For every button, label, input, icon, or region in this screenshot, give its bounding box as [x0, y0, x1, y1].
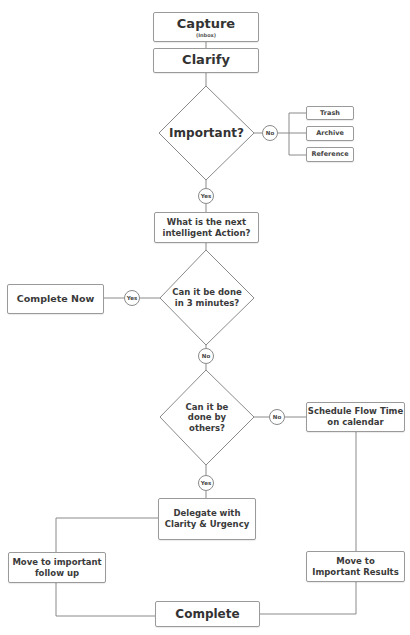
- by-others-line2: done by: [188, 412, 226, 423]
- archive-box: Archive: [306, 126, 354, 141]
- next-action-box: What is the next intelligent Action?: [154, 212, 259, 243]
- important-results-line1: Move to: [336, 556, 374, 567]
- delegate-line1: Delegate with: [174, 508, 241, 519]
- important-label: Important?: [169, 126, 244, 141]
- important-yes-connector: Yes: [198, 188, 214, 204]
- three-minutes-yes-connector: Yes: [124, 290, 140, 306]
- clarify-box: Clarify: [153, 48, 259, 73]
- by-others-line1: Can it be: [186, 402, 229, 413]
- follow-up-box: Move to important follow up: [8, 552, 106, 583]
- by-others-no-label: No: [273, 414, 281, 420]
- three-minutes-decision: Can it be done in 3 minutes?: [160, 250, 254, 345]
- schedule-box: Schedule Flow Time on calendar: [306, 402, 405, 432]
- follow-up-line2: follow up: [35, 568, 79, 579]
- capture-sublabel: (Inbox): [196, 33, 216, 38]
- important-no-label: No: [266, 130, 274, 136]
- three-minutes-no-connector: No: [198, 348, 214, 364]
- important-yes-label: Yes: [201, 193, 211, 199]
- capture-box: Capture (Inbox): [153, 12, 259, 42]
- complete-label: Complete: [175, 607, 239, 622]
- follow-up-line1: Move to important: [12, 557, 101, 568]
- reference-label: Reference: [311, 150, 348, 158]
- trash-box: Trash: [306, 106, 354, 120]
- important-decision: Important?: [159, 86, 254, 180]
- by-others-decision: Can it be done by others?: [160, 370, 254, 465]
- important-results-line2: Important Results: [312, 567, 398, 578]
- schedule-line2: on calendar: [327, 417, 383, 428]
- three-minutes-line1: Can it be done: [172, 287, 241, 298]
- complete-now-label: Complete Now: [17, 293, 94, 305]
- next-action-line1: What is the next: [167, 217, 246, 228]
- reference-box: Reference: [306, 147, 354, 162]
- important-no-connector: No: [262, 125, 278, 141]
- by-others-yes-connector: Yes: [198, 475, 214, 491]
- delegate-box: Delegate with Clarity & Urgency: [158, 498, 256, 540]
- complete-box: Complete: [155, 601, 260, 627]
- next-action-line2: intelligent Action?: [163, 228, 251, 239]
- by-others-yes-label: Yes: [201, 480, 211, 486]
- complete-now-box: Complete Now: [7, 284, 104, 314]
- archive-label: Archive: [316, 129, 344, 137]
- three-minutes-line2: in 3 minutes?: [175, 298, 240, 309]
- three-minutes-yes-label: Yes: [127, 295, 137, 301]
- schedule-line1: Schedule Flow Time: [308, 406, 403, 417]
- trash-label: Trash: [320, 109, 340, 117]
- clarify-label: Clarify: [182, 52, 230, 68]
- important-results-box: Move to Important Results: [306, 551, 405, 582]
- delegate-line2: Clarity & Urgency: [165, 519, 250, 530]
- by-others-line3: others?: [189, 423, 225, 434]
- capture-label: Capture: [177, 16, 235, 32]
- by-others-no-connector: No: [269, 409, 285, 425]
- three-minutes-no-label: No: [202, 353, 210, 359]
